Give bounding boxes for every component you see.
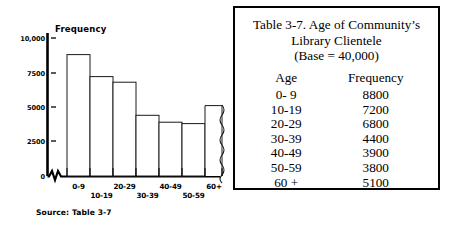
table-row: 40-49 3900 [235,146,438,161]
bar-30-39 [136,115,159,176]
cell-age: 20-29 [235,117,327,132]
column-header-frequency: Frequency [327,71,438,89]
xtick-label-10-19: 10-19 [91,191,113,200]
clientele-table: Age Frequency 0- 9 8800 10-19 7200 20-29… [235,71,438,191]
cell-age: 50-59 [235,161,327,176]
bar-40-49 [159,122,182,176]
table-row: 10-19 7200 [235,103,438,118]
ytick-label-7500: 7500 [27,70,45,78]
table-row: 0- 9 8800 [235,88,438,103]
cell-frequency: 4400 [327,132,438,147]
cell-frequency: 3900 [327,146,438,161]
ytick-label-5000: 5000 [27,104,45,112]
table-caption-line-3: (Base = 40,000) [241,48,432,64]
bar-20-29 [113,82,136,176]
table-header-row: Age Frequency [235,71,438,89]
xtick-label-40-49: 40-49 [160,182,182,191]
table-caption-line-1: Table 3-7. Age of Community’s [241,17,432,33]
histogram-chart: 10,000 7500 5000 2500 0 Frequency [0,0,232,231]
cell-frequency: 7200 [327,103,438,118]
bar-60-plus [205,106,222,176]
xtick-label-20-29: 20-29 [114,182,136,191]
cell-age: 60 + [235,176,327,191]
cell-frequency: 6800 [327,117,438,132]
table-row: 50-59 3800 [235,161,438,176]
cell-frequency: 3800 [327,161,438,176]
cell-age: 10-19 [235,103,327,118]
table-caption: Table 3-7. Age of Community’s Library Cl… [235,8,438,64]
cell-frequency: 8800 [327,88,438,103]
table-body: 0- 9 8800 10-19 7200 20-29 6800 30-39 44… [235,88,438,190]
table-caption-line-2: Library Clientele [241,33,432,49]
bar-50-59 [182,124,205,176]
cell-age: 0- 9 [235,88,327,103]
xtick-label-0-9: 0-9 [72,182,85,191]
ytick-label-0: 0 [41,173,46,181]
cell-age: 40-49 [235,146,327,161]
ytick-label-10000: 10,000 [20,35,45,43]
xtick-label-60-plus: 60+ [206,182,222,191]
cell-age: 30-39 [235,132,327,147]
y-axis-ticks [51,38,56,141]
table-row: 30-39 4400 [235,132,438,147]
table-row: 20-29 6800 [235,117,438,132]
bar-10-19 [90,77,113,176]
histogram-panel: 10,000 7500 5000 2500 0 Frequency [0,0,232,231]
bar-series [67,55,222,176]
clientele-table-box: Table 3-7. Age of Community’s Library Cl… [233,6,440,190]
table-row: 60 + 5100 [235,176,438,191]
xtick-label-50-59: 50-59 [183,191,205,200]
y-axis-title: Frequency [55,24,107,34]
xtick-label-30-39: 30-39 [137,191,159,200]
ytick-label-2500: 2500 [27,138,45,146]
cell-frequency: 5100 [327,176,438,191]
column-header-age: Age [235,71,327,89]
table-head: Age Frequency [235,71,438,89]
bar-0-9 [67,55,90,176]
source-note: Source: Table 3-7 [36,208,112,217]
